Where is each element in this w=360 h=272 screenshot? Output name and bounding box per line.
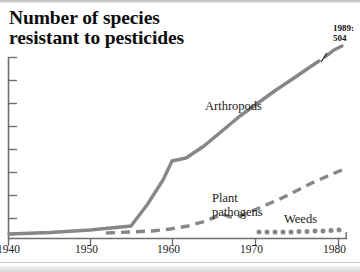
series-weeds-dots: [257, 228, 342, 235]
series-arthropods-break-segment: [325, 46, 342, 57]
series-label-plant-pathogens: Plant pathogens: [212, 192, 263, 219]
plot-area: [0, 0, 360, 272]
x-tick-label-1940: 1940: [0, 243, 20, 255]
series-label-plant-pathogens-line-1: Plant: [212, 192, 263, 206]
series-label-weeds: Weeds: [284, 213, 317, 227]
x-tick-label-1960: 1960: [157, 243, 180, 255]
scan-edge-bottom-gradient: [0, 266, 360, 272]
series-label-plant-pathogens-line-2: pathogens: [212, 206, 263, 220]
x-tick-label-1950: 1950: [75, 243, 98, 255]
series-label-arthropods: Arthropods: [205, 100, 262, 114]
x-tick-label-1970: 1970: [240, 243, 263, 255]
chart-figure: Number of species resistant to pesticide…: [0, 0, 360, 272]
series-arthropods-line: [9, 61, 319, 234]
x-tick-label-1980: 1980: [323, 243, 346, 255]
y-axis-ticks: [8, 58, 17, 219]
